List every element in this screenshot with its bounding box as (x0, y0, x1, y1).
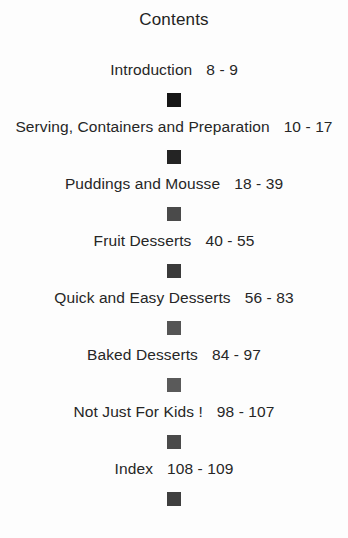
bullet-separator (0, 365, 348, 402)
toc-entry-label: Serving, Containers and Preparation (15, 118, 269, 135)
page-title: Contents (0, 10, 348, 30)
filled-square-bullet-icon (167, 435, 181, 449)
toc-entry-label: Introduction (110, 61, 192, 78)
toc-entry-label: Not Just For Kids ! (73, 403, 202, 420)
filled-square-bullet-icon (167, 207, 181, 221)
filled-square-bullet-icon (167, 492, 181, 506)
filled-square-bullet-icon (167, 93, 181, 107)
toc-entry-pages: 108 - 109 (153, 460, 233, 477)
toc-entry-line: Baked Desserts84 - 97 (0, 345, 348, 365)
toc-entry-line: Index108 - 109 (0, 459, 348, 479)
toc-entry-line: Not Just For Kids !98 - 107 (0, 402, 348, 422)
list-item[interactable]: Introduction8 - 9 (0, 60, 348, 80)
bullet-separator (0, 308, 348, 345)
toc-entry-label: Puddings and Mousse (65, 175, 220, 192)
list-item[interactable]: Quick and Easy Desserts56 - 83 (0, 288, 348, 308)
list-item[interactable]: Fruit Desserts40 - 55 (0, 231, 348, 251)
toc-entry-line: Quick and Easy Desserts56 - 83 (0, 288, 348, 308)
toc-entry-label: Quick and Easy Desserts (54, 289, 230, 306)
toc-entry-pages: 40 - 55 (191, 232, 254, 249)
bullet-separator (0, 251, 348, 288)
bullet-separator (0, 194, 348, 231)
toc-entry-label: Index (115, 460, 153, 477)
list-item[interactable]: Index108 - 109 (0, 459, 348, 479)
toc-entry-pages: 56 - 83 (231, 289, 294, 306)
filled-square-bullet-icon (167, 264, 181, 278)
bullet-separator (0, 137, 348, 174)
toc-entry-label: Fruit Desserts (94, 232, 192, 249)
toc-entry-line: Puddings and Mousse18 - 39 (0, 174, 348, 194)
filled-square-bullet-icon (167, 321, 181, 335)
list-item[interactable]: Puddings and Mousse18 - 39 (0, 174, 348, 194)
list-item[interactable]: Not Just For Kids !98 - 107 (0, 402, 348, 422)
filled-square-bullet-icon (167, 150, 181, 164)
toc-entry-pages: 18 - 39 (220, 175, 283, 192)
bullet-separator (0, 422, 348, 459)
list-item[interactable]: Baked Desserts84 - 97 (0, 345, 348, 365)
toc-entry-line: Fruit Desserts40 - 55 (0, 231, 348, 251)
toc-entry-pages: 8 - 9 (192, 61, 238, 78)
bullet-separator (0, 80, 348, 117)
contents-list: Introduction8 - 9 Serving, Containers an… (0, 60, 348, 516)
bullet-separator (0, 479, 348, 516)
toc-entry-pages: 10 - 17 (270, 118, 333, 135)
table-of-contents-page: Contents Introduction8 - 9 Serving, Cont… (0, 0, 348, 538)
list-item[interactable]: Serving, Containers and Preparation10 - … (0, 117, 348, 137)
toc-entry-line: Introduction8 - 9 (0, 60, 348, 80)
toc-entry-pages: 84 - 97 (198, 346, 261, 363)
toc-entry-label: Baked Desserts (87, 346, 198, 363)
toc-entry-pages: 98 - 107 (203, 403, 275, 420)
filled-square-bullet-icon (167, 378, 181, 392)
toc-entry-line: Serving, Containers and Preparation10 - … (0, 117, 348, 137)
